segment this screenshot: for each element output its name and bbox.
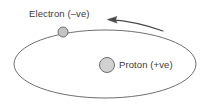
atom-diagram: Electron (–ve) Proton (+ve) bbox=[0, 0, 209, 110]
electron-label: Electron (–ve) bbox=[29, 9, 90, 19]
proton-label: Proton (+ve) bbox=[119, 60, 173, 70]
orbit-direction-arrow-icon bbox=[107, 16, 117, 23]
proton-particle-icon bbox=[100, 58, 115, 73]
electron-particle-icon bbox=[58, 27, 68, 37]
orbit-direction-arrow-line bbox=[110, 20, 163, 31]
